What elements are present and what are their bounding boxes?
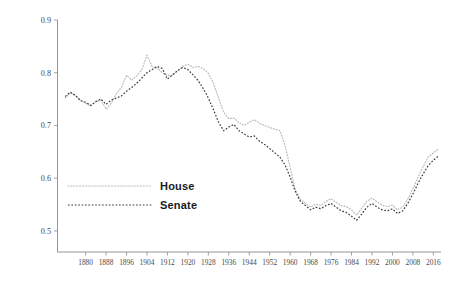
x-tick-label: 1912 — [160, 258, 175, 267]
x-tick-label: 1936 — [221, 258, 236, 267]
legend-label-senate: Senate — [160, 199, 197, 211]
series-line-house — [65, 55, 438, 215]
y-tick-label: 0.8 — [41, 69, 51, 78]
x-tick-label: 1880 — [78, 258, 93, 267]
y-tick-label: 0.5 — [41, 227, 51, 236]
x-tick-label: 1968 — [303, 258, 318, 267]
x-tick-label: 1920 — [180, 258, 195, 267]
x-tick-label: 1952 — [262, 258, 277, 267]
x-tick-label: 1928 — [201, 258, 216, 267]
x-tick-label: 1896 — [119, 258, 134, 267]
y-tick-label: 0.6 — [41, 174, 51, 183]
x-tick-label: 2000 — [385, 258, 400, 267]
x-tick-label: 1904 — [140, 258, 155, 267]
line-chart-canvas: 0.90.80.70.60.5 188018881896190419121920… — [0, 0, 452, 282]
y-tick-label: 0.9 — [41, 16, 51, 25]
axis-lines — [58, 20, 442, 252]
y-axis-ticks: 0.90.80.70.60.5 — [41, 16, 58, 236]
y-tick-label: 0.7 — [41, 121, 51, 130]
series-line-senate — [65, 66, 438, 220]
x-tick-label: 1984 — [344, 258, 359, 267]
x-tick-label: 1976 — [324, 258, 339, 267]
x-tick-label: 1888 — [99, 258, 114, 267]
x-axis-ticks: 1880188818961904191219201928193619441952… — [78, 252, 441, 267]
x-tick-label: 1960 — [283, 258, 298, 267]
x-tick-label: 1944 — [242, 258, 257, 267]
data-series-group — [65, 55, 438, 220]
x-tick-label: 1992 — [365, 258, 380, 267]
legend-label-house: House — [160, 180, 195, 192]
x-tick-label: 2008 — [405, 258, 420, 267]
chart-legend: House Senate — [68, 180, 197, 211]
chart-figure: 0.90.80.70.60.5 188018881896190419121920… — [0, 0, 452, 282]
x-tick-label: 2016 — [426, 258, 441, 267]
